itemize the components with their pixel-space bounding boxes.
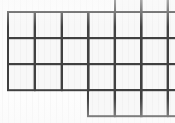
grid-cell-face — [141, 0, 168, 12]
grid-cell-face — [115, 0, 142, 12]
grid-cell-face — [35, 12, 62, 38]
grid-cell-face — [62, 12, 89, 38]
grid-cell-face — [115, 12, 142, 38]
grid-cell-face — [88, 38, 115, 64]
grid-cell-face — [8, 12, 35, 38]
grid-cell-face — [62, 64, 89, 90]
grid-cell-face — [141, 64, 168, 90]
grid-cell-face — [8, 38, 35, 64]
grid-cell-face — [168, 38, 175, 64]
grid-cell-face — [115, 38, 142, 64]
grid-cell-face — [168, 90, 175, 116]
grid-cell-face — [35, 64, 62, 90]
grid-cell-face — [88, 90, 115, 116]
grid-cell-face — [141, 12, 168, 38]
grid-cell-face — [115, 90, 142, 116]
grid-cell-face — [141, 38, 168, 64]
grid-canvas — [0, 0, 175, 123]
grid-cell-face — [168, 12, 175, 38]
grid-cell-face — [168, 0, 175, 12]
grid-cell-face — [88, 64, 115, 90]
cell-faces-layer — [8, 0, 175, 116]
grid-cell-face — [88, 12, 115, 38]
grid-cell-face — [35, 38, 62, 64]
grid-cell-face — [115, 64, 142, 90]
grid-cell-face — [62, 38, 89, 64]
grid-cell-face — [141, 90, 168, 116]
grid-cell-face — [168, 64, 175, 90]
grid-cell-face — [8, 64, 35, 90]
grid-figure: Irregular grid polyomino figure A scanne… — [0, 0, 175, 123]
